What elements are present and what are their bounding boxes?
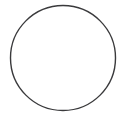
figure-canvas — [0, 0, 126, 119]
diagram-svg — [0, 0, 126, 119]
canvas-background — [0, 0, 126, 119]
